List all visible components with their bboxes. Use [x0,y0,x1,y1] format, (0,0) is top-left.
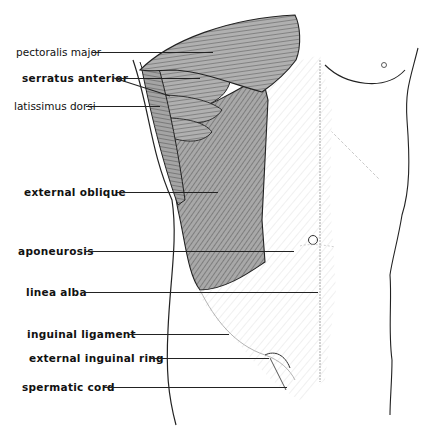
label-linea-alba: linea alba [26,286,87,298]
nipple [382,63,387,68]
breast-contour [325,65,405,84]
body-outline-right [390,48,418,415]
anatomy-figure [0,0,431,444]
leader-line-inguinal-ligament [128,334,229,335]
leader-line-serratus-anterior-branch [112,76,172,98]
label-aponeurosis: aponeurosis [18,245,94,257]
label-inguinal-ligament: inguinal ligament [27,328,136,340]
label-latissimus-dorsi: latissimus dorsi [14,100,96,112]
leader-line-latissimus-dorsi [86,106,160,107]
leader-line-linea-alba [82,292,318,293]
leader-line-external-inguinal-ring [150,358,269,359]
leader-line-spermatic-cord [103,387,287,388]
leader-line-aponeurosis [86,251,294,252]
label-external-inguinal-ring: external inguinal ring [29,352,164,364]
anatomy-illustration [0,0,431,444]
label-external-oblique: external oblique [24,186,126,198]
label-pectoralis-major: pectoralis major [16,46,101,58]
leader-line-external-oblique [117,192,218,193]
leader-line-pectoralis-major [92,52,213,53]
label-spermatic-cord: spermatic cord [22,381,115,393]
